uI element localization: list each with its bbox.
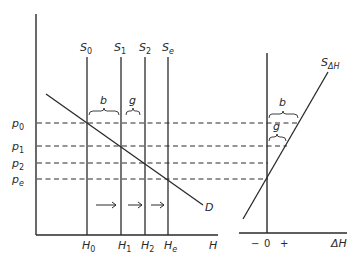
quantity-label-h1: H1: [118, 239, 131, 254]
price-label-p2: p2: [11, 157, 24, 172]
quantity-label-he: He: [164, 239, 177, 254]
flow-supply-curve: [243, 72, 328, 219]
price-label-p0: p0: [11, 117, 24, 132]
brace-g-right: [269, 134, 286, 141]
right-panel: SΔH b g − 0 + ΔH: [239, 53, 347, 250]
brace-g-left: [126, 108, 140, 115]
tick-zero: 0: [264, 238, 270, 249]
stock-flow-housing-diagram: p0 p1 p2 pe S0 S1 S2 Se D b g: [0, 0, 364, 262]
supply-label-s2: S2: [139, 41, 151, 56]
gap-label-g-right: g: [273, 120, 280, 133]
supply-label-se: Se: [162, 41, 174, 56]
gap-label-b-right: b: [279, 96, 286, 109]
supply-label-s1: S1: [114, 41, 126, 56]
tick-plus: +: [280, 238, 288, 249]
price-label-p1: p1: [11, 140, 24, 155]
brace-b-left: [89, 108, 119, 115]
brace-b-right: [269, 111, 298, 118]
gap-label-g-left: g: [129, 94, 136, 107]
gap-label-b-left: b: [100, 94, 107, 107]
tick-minus: −: [251, 238, 259, 249]
demand-label: D: [205, 201, 213, 214]
flow-supply-label: SΔH: [321, 56, 339, 71]
demand-curve: [46, 94, 203, 205]
arrow-shift-1: [96, 202, 116, 208]
quantity-label-h2: H2: [141, 239, 154, 254]
price-label-pe: pe: [11, 173, 24, 188]
supply-label-s0: S0: [80, 41, 92, 56]
change-axis-label: ΔH: [330, 237, 347, 250]
quantity-label-h0: H0: [82, 239, 95, 254]
arrow-shift-2: [128, 202, 142, 208]
arrow-shift-3: [151, 202, 164, 208]
left-panel: p0 p1 p2 pe S0 S1 S2 Se D b g: [11, 14, 298, 254]
quantity-axis-label: H: [209, 239, 217, 252]
